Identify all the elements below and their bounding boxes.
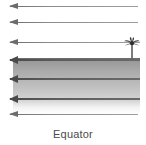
ray-shaft [10,98,140,100]
arrowhead-left-icon [9,75,18,83]
equator-label: Equator [0,128,146,140]
palm-tree-icon [123,37,141,59]
arrowhead-left-icon [9,19,18,25]
ray-shaft [10,6,138,7]
ray-shaft [10,42,140,43]
ray-shaft [10,78,140,80]
ray-shaft [10,114,138,115]
ray-shaft [10,22,138,23]
arrowhead-left-icon [9,39,18,45]
arrowhead-left-icon [9,56,18,64]
arrowhead-left-icon [9,95,18,103]
arrowhead-left-icon [9,3,18,9]
arrowhead-left-icon [9,111,18,117]
ray-shaft [10,59,140,61]
equatorial-band-glow [13,99,140,115]
sun-rays-equator-diagram: Equator [0,0,146,145]
